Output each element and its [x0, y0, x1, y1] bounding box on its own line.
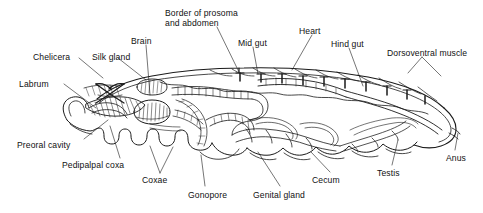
label-line-2: and abdomen — [165, 18, 238, 28]
label-coxae: Coxae — [142, 175, 167, 185]
testis-coils — [350, 118, 418, 135]
brain — [134, 100, 170, 124]
anatomy-illustration — [0, 0, 483, 213]
label-line-1: Border of prosoma — [165, 8, 238, 18]
label-heart: Heart — [299, 26, 321, 36]
gonopore-region — [212, 143, 247, 155]
labrum — [63, 97, 89, 120]
heart — [258, 78, 346, 97]
label-silk-gland: Silk gland — [92, 52, 130, 62]
label-genital-gland: Genital gland — [253, 190, 305, 200]
label-brain: Brain — [131, 36, 152, 46]
anterior-muscle-band — [84, 85, 119, 96]
nerve-cord — [150, 124, 180, 131]
label-dorsoventral-muscle: Dorsoventral muscle — [387, 48, 467, 58]
label-border-of-prosoma-and-abdomen: Border of prosoma and abdomen — [165, 8, 238, 28]
genital-gland — [206, 113, 254, 134]
label-pedipalpal-coxa: Pedipalpal coxa — [62, 160, 124, 170]
label-testis: Testis — [377, 168, 400, 178]
label-gonopore: Gonopore — [188, 190, 227, 200]
label-mid-gut: Mid gut — [238, 38, 267, 48]
anatomical-figure: Border of prosoma and abdomen Mid gut He… — [0, 0, 483, 213]
posterior-outline — [414, 108, 456, 148]
label-anus: Anus — [446, 153, 466, 163]
dorsal-outline — [97, 68, 444, 108]
cecum — [232, 129, 340, 151]
suboesophageal-ganglion — [137, 79, 167, 95]
label-hind-gut: Hind gut — [331, 39, 364, 49]
label-chelicera: Chelicera — [33, 52, 70, 62]
label-preoral-cavity: Preoral cavity — [17, 140, 70, 150]
label-cecum: Cecum — [312, 175, 340, 185]
cecum-convolutions — [250, 118, 338, 146]
label-labrum: Labrum — [19, 79, 49, 89]
